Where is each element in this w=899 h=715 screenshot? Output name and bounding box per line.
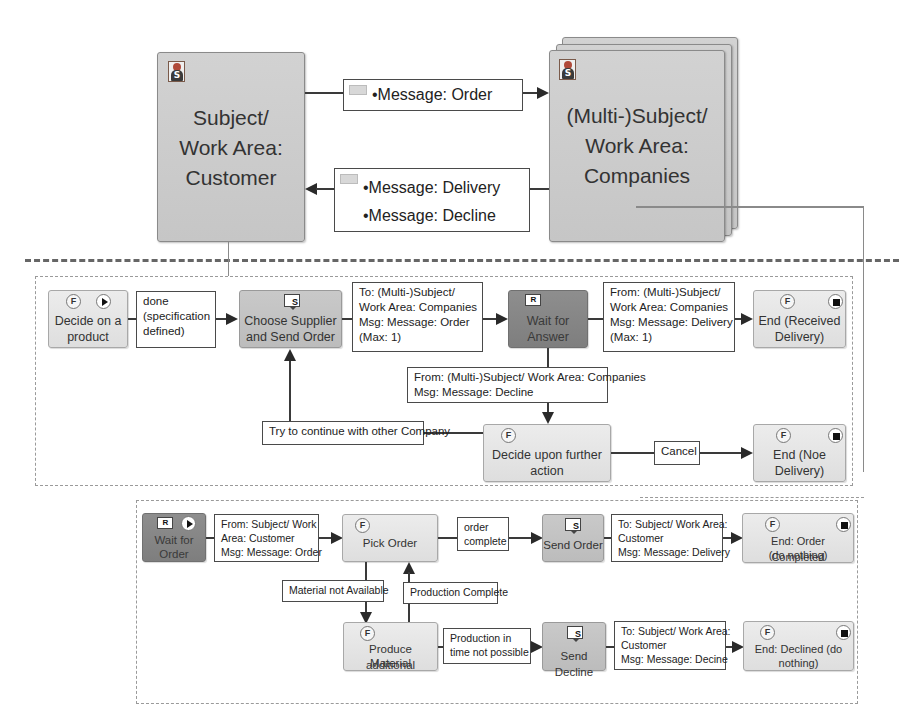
arrow-down-icon [542, 412, 554, 424]
transition-order-complete[interactable]: order complete [457, 517, 509, 551]
state-wait-answer[interactable]: R Wait for Answer [508, 290, 588, 348]
connector [509, 537, 533, 539]
end-icon [828, 428, 843, 443]
function-icon: F [66, 294, 81, 309]
arrow-right-icon [226, 313, 238, 325]
section-divider [25, 259, 899, 262]
transition-receive-order[interactable]: From: Subject/ Work Area: Customer Msg: … [214, 514, 319, 562]
envelope-icon [340, 174, 358, 184]
send-icon: S [565, 518, 581, 531]
state-send-decline[interactable]: S Send Decline [542, 622, 606, 671]
state-choose-supplier[interactable]: S Choose Supplier and Send Order [239, 290, 342, 348]
function-icon: F [765, 517, 780, 532]
callout-line [228, 242, 229, 276]
transition-cancel[interactable]: Cancel [654, 441, 700, 465]
transition-done[interactable]: done (specification defined) [136, 291, 216, 348]
connector [547, 348, 549, 368]
state-end-received[interactable]: F End (Received Delivery) [753, 290, 846, 348]
arrow-right-icon [741, 313, 753, 325]
connector [611, 452, 655, 454]
message-return-box[interactable]: •Message: Delivery •Message: Decline [334, 168, 530, 232]
state-produce-material[interactable]: F Produce additional Material [343, 622, 438, 671]
end-icon [828, 294, 843, 309]
subject-customer-line1: Subject/ [158, 103, 304, 133]
envelope-icon [349, 85, 367, 95]
state-end-completed[interactable]: F End: Order Completed (do nothing) [742, 513, 854, 563]
subject-companies-line2: Work Area: [550, 131, 724, 161]
message-delivery-label: •Message: Delivery [363, 179, 500, 197]
message-decline-label: •Message: Decline [363, 207, 496, 225]
receive-icon: R [157, 517, 173, 529]
arrow-right-icon [741, 447, 753, 459]
function-icon: F [776, 428, 791, 443]
connector [289, 360, 291, 421]
connector [408, 604, 410, 624]
state-send-order[interactable]: S Send Order [542, 514, 604, 562]
state-end-no-delivery[interactable]: F End (Noe Delivery) [753, 424, 846, 482]
transition-send-delivery[interactable]: To: Subject/ Work Area: Customer Msg: Me… [611, 514, 723, 562]
connector [316, 188, 336, 190]
callout-line [636, 206, 864, 208]
connector [438, 537, 458, 539]
function-icon: F [760, 625, 775, 640]
subject-icon: S [168, 61, 185, 82]
state-wait-order[interactable]: R Wait for Order [142, 513, 206, 562]
message-order-label: •Message: Order [372, 86, 492, 104]
function-icon: F [355, 518, 370, 533]
arrow-up-icon [284, 349, 296, 361]
transition-send-order[interactable]: To: (Multi-)Subject/ Work Area: Companie… [352, 282, 483, 352]
receive-icon: R [525, 294, 541, 306]
start-icon [181, 516, 196, 531]
state-decide-further[interactable]: F Decide upon further action [483, 424, 611, 482]
connector [128, 318, 136, 320]
send-icon: S [284, 294, 300, 307]
end-icon [836, 625, 851, 640]
send-icon: S [567, 626, 583, 639]
arrow-right-icon [496, 313, 508, 325]
transition-receive-decline[interactable]: From: (Multi-)Subject/ Work Area: Compan… [407, 367, 608, 403]
subject-customer-line3: Customer [158, 163, 304, 193]
callout-line [863, 206, 864, 472]
function-icon: F [501, 428, 516, 443]
function-icon: F [360, 626, 375, 641]
transition-material-not-available[interactable]: Material not Available [282, 580, 384, 602]
pool-top-border [640, 497, 864, 498]
connector [342, 318, 352, 320]
connector [305, 92, 345, 94]
transition-send-decline[interactable]: To: Subject/ Work Area: Customer Msg: Me… [614, 621, 726, 670]
subject-companies-line1: (Multi-)Subject/ [550, 101, 724, 131]
connector [365, 562, 367, 580]
subject-customer[interactable]: S Subject/ Work Area: Customer [157, 52, 305, 242]
transition-receive-delivery[interactable]: From: (Multi-)Subject/ Work Area: Compan… [603, 282, 735, 352]
transition-try-other[interactable]: Try to continue with other Company [262, 421, 424, 445]
subject-icon: S [559, 59, 576, 80]
state-pick-order[interactable]: F Pick Order [342, 514, 438, 562]
transition-production-not-possible[interactable]: Production in time not possible [443, 628, 531, 664]
function-icon: F [780, 294, 795, 309]
end-icon [836, 517, 851, 532]
transition-production-complete[interactable]: Production Complete [403, 582, 498, 604]
connector [530, 188, 549, 190]
subject-companies[interactable]: S (Multi-)Subject/ Work Area: Companies [549, 50, 725, 242]
subject-customer-line2: Work Area: [158, 133, 304, 163]
state-decide-product[interactable]: F Decide on a product [48, 290, 128, 348]
state-end-declined[interactable]: F End: Declined (do nothing) [743, 621, 854, 671]
arrow-right-icon [537, 87, 549, 99]
subject-companies-line3: Companies [550, 161, 724, 191]
connector [700, 452, 742, 454]
message-order-box[interactable]: •Message: Order [343, 79, 523, 111]
connector [588, 318, 603, 320]
start-icon [96, 294, 111, 309]
